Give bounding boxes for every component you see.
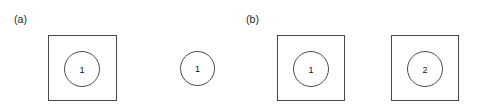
- circle-label-1: 1: [79, 65, 84, 74]
- circle-label-4: 2: [422, 65, 427, 74]
- panel-label-b: (b): [246, 14, 259, 25]
- circle-label-3: 1: [308, 65, 313, 74]
- circle-outline-1: 1: [64, 51, 100, 87]
- panel-label-a: (a): [14, 14, 27, 25]
- circle-outline-4: 2: [407, 51, 443, 87]
- circle-outline-2: 1: [180, 51, 215, 86]
- circle-label-2: 1: [195, 65, 200, 74]
- figure-canvas: (a) (b) 1 1 1 2: [0, 0, 483, 111]
- circle-outline-3: 1: [293, 51, 329, 87]
